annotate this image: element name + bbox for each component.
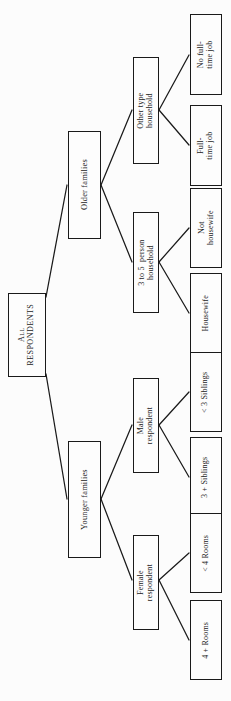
node-label: 3 to 5 person household: [137, 239, 154, 285]
node-younger-families[interactable]: Younger families: [68, 441, 101, 558]
edge-root-to-older-families: [46, 185, 67, 297]
edge-male-to-3plus-siblings: [159, 425, 189, 477]
node-four-plus-rooms[interactable]: 4 + Rooms: [190, 600, 222, 680]
node-less-than-3-siblings[interactable]: < 3 Siblings: [190, 352, 222, 432]
node-three-to-five-person-household[interactable]: 3 to 5 person household: [133, 212, 159, 313]
node-other-type-household[interactable]: Other type household: [133, 57, 159, 164]
edge-3to5-to-not-housewife: [159, 228, 189, 262]
edge-female-to-4plus-rooms: [159, 580, 189, 640]
node-label: Housewife: [202, 295, 211, 331]
node-label: Younger families: [80, 469, 89, 530]
node-label: 4 + Rooms: [202, 622, 211, 659]
node-female-respondent[interactable]: Female respondent: [133, 535, 159, 630]
node-older-families[interactable]: Older families: [68, 131, 101, 239]
node-three-plus-siblings[interactable]: 3 + Siblings: [190, 437, 222, 517]
edge-male-to-lt3-siblings: [159, 392, 189, 425]
node-label: < 4 Rooms: [202, 535, 211, 572]
node-label: 3 + Siblings: [202, 456, 211, 497]
edge-root-to-younger-families: [46, 374, 67, 499]
edge-other-type-to-full-time: [159, 110, 189, 145]
node-less-than-4-rooms[interactable]: < 4 Rooms: [190, 513, 222, 593]
edge-3to5-to-housewife: [159, 262, 189, 313]
edge-younger-to-female: [101, 499, 132, 580]
node-full-time-job[interactable]: Full- time job: [190, 105, 222, 186]
node-housewife[interactable]: Housewife: [190, 273, 222, 353]
node-not-housewife[interactable]: Not housewife: [190, 188, 222, 268]
node-label: < 3 Siblings: [202, 371, 211, 412]
edge-other-type-to-no-full-time: [159, 55, 189, 110]
node-label: No full- time job: [197, 40, 214, 68]
edge-older-to-3to5-person: [101, 185, 132, 262]
edge-female-to-lt4-rooms: [159, 553, 189, 580]
tree-diagram: All RESPONDENTS Older families Younger f…: [0, 0, 231, 701]
node-label: Not housewife: [197, 211, 214, 246]
node-label: Male respondent: [137, 407, 154, 444]
edge-younger-to-male: [101, 425, 132, 499]
node-label: Full- time job: [197, 131, 214, 159]
node-label: Female respondent: [137, 564, 154, 601]
node-label: Other type household: [137, 93, 154, 129]
node-no-full-time-job[interactable]: No full- time job: [190, 14, 222, 95]
edge-older-to-other-type: [101, 110, 132, 185]
node-all-respondents[interactable]: All RESPONDENTS: [8, 293, 46, 377]
node-label: All RESPONDENTS: [18, 304, 35, 366]
node-label: Older families: [80, 160, 89, 211]
node-male-respondent[interactable]: Male respondent: [133, 378, 159, 473]
